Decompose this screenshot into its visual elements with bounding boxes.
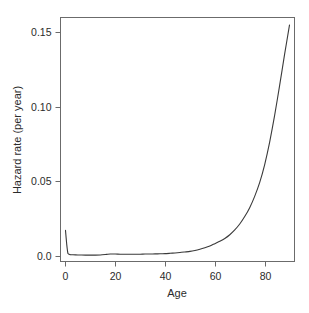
y-tick-label: 0.15	[31, 26, 52, 38]
y-tick-label: 0.05	[31, 175, 52, 187]
y-tick-label: 0.0	[37, 250, 52, 262]
x-axis-tick-marks	[66, 262, 266, 267]
y-axis-title: Hazard rate (per year)	[11, 86, 23, 194]
x-tick-label: 0	[63, 270, 69, 282]
x-tick-label: 40	[160, 270, 172, 282]
y-axis-tick-marks	[56, 33, 61, 257]
hazard-rate-chart-figure: 020406080 0.00.050.100.15 Age Hazard rat…	[0, 0, 309, 313]
y-axis-tick-labels: 0.00.050.100.15	[31, 26, 52, 262]
hazard-rate-curve	[65, 25, 289, 255]
x-axis-tick-labels: 020406080	[63, 270, 272, 282]
plot-frame-border	[61, 18, 295, 262]
x-tick-label: 80	[260, 270, 272, 282]
y-tick-label: 0.10	[31, 101, 52, 113]
x-tick-label: 60	[210, 270, 222, 282]
x-axis-title: Age	[167, 287, 187, 299]
x-tick-label: 20	[110, 270, 122, 282]
chart-canvas: 020406080 0.00.050.100.15 Age Hazard rat…	[0, 0, 309, 313]
plot-frame-group	[61, 18, 295, 262]
